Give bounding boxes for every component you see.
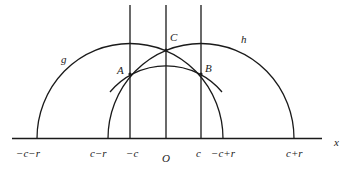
- label-x-axis: x: [333, 136, 339, 148]
- label-h: h: [241, 33, 247, 45]
- label-a: A: [116, 64, 124, 76]
- point-a: [128, 72, 131, 75]
- tick-origin: O: [162, 152, 170, 164]
- label-g: g: [61, 53, 67, 65]
- label-c: C: [170, 31, 178, 43]
- label-b: B: [205, 62, 212, 74]
- tick-neg-c: −c: [126, 147, 138, 159]
- diagram-canvas: A B C g h x −c−r c−r −c O c −c+r c+r: [0, 0, 348, 180]
- tick-neg-c-minus-r: −c−r: [16, 147, 41, 159]
- tick-neg-c-plus-r: −c+r: [211, 147, 236, 159]
- tick-c-plus-r: c+r: [286, 147, 303, 159]
- tick-c-minus-r: c−r: [90, 147, 107, 159]
- tick-c: c: [196, 147, 201, 159]
- point-c: [164, 48, 167, 51]
- point-b: [199, 72, 202, 75]
